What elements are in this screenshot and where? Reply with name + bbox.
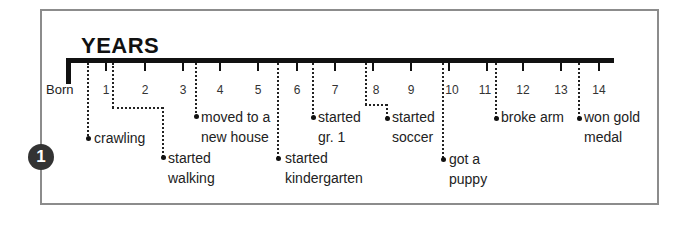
tick-label: 14 (592, 83, 605, 97)
tick-13 (560, 62, 562, 71)
event-moved-house: moved to a new house (201, 107, 270, 147)
event-started-kindergarten: started kindergarten (285, 148, 363, 188)
tick-label: 9 (408, 83, 415, 97)
timeline-start-marker (66, 58, 71, 84)
tick-7 (334, 62, 336, 71)
connector-crawling (87, 63, 89, 139)
event-got-puppy: got a puppy (449, 149, 487, 189)
connector-broke-arm (495, 63, 497, 118)
event-broke-arm: broke arm (501, 107, 564, 127)
marker-dot (441, 157, 446, 162)
tick-label: 13 (554, 83, 567, 97)
timeline-bar (66, 58, 614, 63)
tick-5 (257, 62, 259, 71)
tick-label: 7 (332, 83, 339, 97)
marker-dot (161, 155, 166, 160)
connector-walking-h (112, 107, 163, 109)
connector-kindergarten (277, 63, 279, 158)
tick-label: 3 (180, 83, 187, 97)
tick-9 (410, 62, 412, 71)
tick-14 (598, 62, 600, 71)
marker-dot (577, 116, 582, 121)
step-number-badge: 1 (28, 144, 54, 170)
tick-2 (144, 62, 146, 71)
tick-label: 6 (294, 83, 301, 97)
tick-label: 12 (516, 83, 529, 97)
tick-6 (296, 62, 298, 71)
event-started-gr1: started gr. 1 (318, 107, 361, 147)
timeline-title: YEARS (81, 33, 159, 59)
connector-gold-medal (578, 63, 580, 118)
connector-soccer-h (365, 104, 387, 106)
event-started-soccer: started soccer (392, 107, 435, 147)
connector-walking (112, 63, 114, 108)
tick-label: 5 (255, 83, 262, 97)
tick-8 (372, 62, 374, 71)
connector-walking-v2 (162, 107, 164, 157)
tick-3 (182, 62, 184, 71)
connector-gr1 (312, 63, 314, 118)
tick-label: 2 (142, 83, 149, 97)
tick-label: 4 (217, 83, 224, 97)
tick-1 (105, 62, 107, 71)
tick-10 (448, 62, 450, 71)
marker-dot (311, 115, 316, 120)
tick-4 (219, 62, 221, 71)
connector-moved (195, 63, 197, 117)
tick-12 (522, 62, 524, 71)
event-won-gold-medal: won gold medal (584, 107, 640, 147)
born-label: Born (46, 82, 73, 97)
connector-soccer (365, 63, 367, 105)
marker-dot (276, 156, 281, 161)
tick-label: 11 (479, 83, 491, 97)
marker-dot (494, 116, 499, 121)
marker-dot (194, 114, 199, 119)
tick-label: 8 (373, 83, 380, 97)
marker-dot (385, 116, 390, 121)
event-crawling: crawling (94, 128, 145, 148)
marker-dot (86, 136, 91, 141)
event-started-walking: started walking (168, 148, 215, 188)
tick-label: 1 (103, 83, 110, 97)
connector-puppy (442, 63, 444, 158)
tick-11 (486, 62, 488, 71)
tick-label: 10 (445, 83, 458, 97)
